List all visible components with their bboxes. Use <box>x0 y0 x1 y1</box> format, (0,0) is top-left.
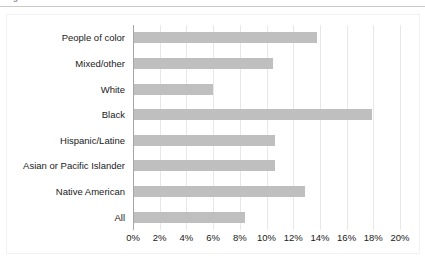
x-axis-tick-label: 12% <box>284 232 303 243</box>
bar-row <box>133 25 400 51</box>
y-axis-category-labels: People of colorMixed/otherWhiteBlackHisp… <box>7 25 131 230</box>
x-axis-tick-label: 16% <box>337 232 356 243</box>
bar-row <box>133 179 400 205</box>
bar-row <box>133 51 400 77</box>
y-axis-label-6: Asian or Pacific Islander <box>7 153 131 179</box>
x-axis-tick-label: 10% <box>257 232 276 243</box>
y-axis-label-text: Asian or Pacific Islander <box>23 160 125 171</box>
y-axis-label-2: Mixed/other <box>7 51 131 77</box>
y-axis-label-text: Black <box>102 109 125 120</box>
x-axis-tick-labels: 0%2%4%6%8%10%12%14%16%18%20% <box>133 232 400 248</box>
bar-row <box>133 153 400 179</box>
x-axis-tick-label: 14% <box>310 232 329 243</box>
bar[interactable] <box>133 186 305 197</box>
y-axis-label-text: Mixed/other <box>75 58 125 69</box>
bar-series <box>133 25 400 230</box>
y-axis-label-text: Hispanic/Latine <box>60 135 125 146</box>
y-axis-label-1: People of color <box>7 25 131 51</box>
bar[interactable] <box>133 160 275 171</box>
x-axis-tick-label: 0% <box>126 232 140 243</box>
y-axis-label-8: All <box>7 204 131 230</box>
y-axis-label-7: Native American <box>7 179 131 205</box>
x-axis-tick-label: 6% <box>206 232 220 243</box>
bar-row <box>133 76 400 102</box>
x-axis-tick-label: 4% <box>180 232 194 243</box>
bar-row <box>133 102 400 128</box>
x-axis-tick-label: 2% <box>153 232 167 243</box>
bar[interactable] <box>133 135 275 146</box>
y-axis-label-3: White <box>7 76 131 102</box>
bar[interactable] <box>133 58 273 69</box>
x-axis-tick-label: 8% <box>233 232 247 243</box>
y-axis-label-text: All <box>114 212 125 223</box>
clipped-caption-text: Figure <box>6 0 30 2</box>
bar[interactable] <box>133 84 213 95</box>
y-axis-label-5: Hispanic/Latine <box>7 128 131 154</box>
chart-screenshot: Figure People of colorMixed/otherWhiteBl… <box>0 0 425 261</box>
bar[interactable] <box>133 109 372 120</box>
bar[interactable] <box>133 212 245 223</box>
plot-area <box>133 25 400 230</box>
x-axis-tick-label: 20% <box>390 232 409 243</box>
caption-divider <box>0 6 425 7</box>
y-axis-label-text: White <box>101 84 125 95</box>
chart-frame: People of colorMixed/otherWhiteBlackHisp… <box>6 14 420 254</box>
gridline <box>400 25 401 230</box>
value-axis-line <box>133 25 134 230</box>
bar[interactable] <box>133 32 317 43</box>
bar-row <box>133 128 400 154</box>
x-axis-tick-label: 18% <box>364 232 383 243</box>
bar-row <box>133 204 400 230</box>
y-axis-label-text: People of color <box>62 32 125 43</box>
y-axis-label-text: Native American <box>56 186 125 197</box>
y-axis-label-4: Black <box>7 102 131 128</box>
